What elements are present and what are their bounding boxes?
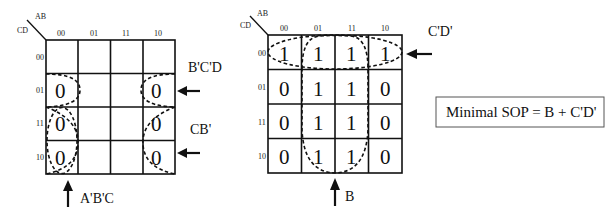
left-col-header: 10 bbox=[154, 29, 162, 38]
right-row-header: 10 bbox=[258, 152, 266, 161]
left-cell-r2-c3: 0 bbox=[151, 112, 162, 136]
left-col-var-label: AB bbox=[35, 12, 46, 21]
left-kmap: AB CD 00 01 11 10 00 01 11 10 0 0 0 0 0 … bbox=[17, 12, 222, 207]
right-row-header: 11 bbox=[258, 118, 266, 127]
right-col-var-label: AB bbox=[257, 9, 268, 18]
left-row-header: 10 bbox=[36, 153, 44, 162]
left-row-header: 01 bbox=[36, 86, 44, 95]
right-cell-r1-c3: 0 bbox=[380, 77, 391, 101]
right-col-header: 01 bbox=[314, 24, 322, 33]
right-label-b: B bbox=[345, 189, 354, 204]
right-col-header: 11 bbox=[348, 24, 356, 33]
right-cell-r0-c1: 1 bbox=[313, 42, 324, 66]
left-row-var-label: CD bbox=[17, 26, 28, 35]
left-row-header: 11 bbox=[36, 119, 44, 128]
right-arrow-cd-icon bbox=[406, 49, 432, 59]
left-label-cb: CB' bbox=[190, 122, 211, 137]
left-col-header: 01 bbox=[90, 29, 98, 38]
right-col-header: 10 bbox=[381, 24, 389, 33]
right-corner-diagonal bbox=[250, 16, 268, 35]
right-cell-r2-c2: 1 bbox=[346, 111, 357, 135]
right-cell-r1-c2: 1 bbox=[346, 77, 357, 101]
right-row-header: 00 bbox=[258, 49, 266, 58]
kmap-diagram: AB CD 00 01 11 10 00 01 11 10 0 0 0 0 0 … bbox=[0, 0, 616, 223]
left-col-header: 11 bbox=[122, 29, 130, 38]
right-cell-r0-c3: 1 bbox=[380, 42, 391, 66]
left-label-bcd: B'C'D bbox=[188, 60, 222, 75]
right-arrow-b-icon bbox=[330, 178, 340, 206]
left-cell-r1-c3: 0 bbox=[151, 79, 162, 103]
right-kmap: AB CD 00 01 11 10 00 01 11 10 1 1 1 1 0 … bbox=[240, 9, 453, 206]
right-cell-r3-c1: 1 bbox=[313, 145, 324, 169]
left-cell-r3-c0: 0 bbox=[55, 146, 66, 170]
left-label-abc: A'B'C bbox=[80, 191, 114, 206]
right-cell-r3-c3: 0 bbox=[380, 145, 391, 169]
right-cell-r3-c0: 0 bbox=[279, 145, 290, 169]
right-cell-r1-c1: 1 bbox=[313, 77, 324, 101]
left-arrow-abc-icon bbox=[63, 180, 73, 207]
right-cell-r2-c3: 0 bbox=[380, 111, 391, 135]
right-label-cd: C'D' bbox=[428, 24, 453, 39]
minimal-sop-text: Minimal SOP = B + C'D' bbox=[446, 104, 597, 120]
right-cell-r0-c2: 1 bbox=[346, 42, 357, 66]
right-cell-r2-c1: 1 bbox=[313, 111, 324, 135]
right-cell-r1-c0: 0 bbox=[279, 77, 290, 101]
minimal-sop-box: Minimal SOP = B + C'D' bbox=[436, 97, 604, 127]
right-cell-r2-c0: 0 bbox=[279, 111, 290, 135]
left-col-header: 00 bbox=[57, 29, 65, 38]
left-cell-r1-c0: 0 bbox=[55, 79, 66, 103]
left-arrow-cb-icon bbox=[177, 148, 200, 158]
right-row-var-label: CD bbox=[240, 21, 251, 30]
left-corner-diagonal bbox=[27, 20, 46, 40]
right-col-header: 00 bbox=[280, 24, 288, 33]
left-row-header: 00 bbox=[36, 53, 44, 62]
left-arrow-bcd-icon bbox=[177, 86, 200, 96]
right-row-header: 01 bbox=[258, 83, 266, 92]
